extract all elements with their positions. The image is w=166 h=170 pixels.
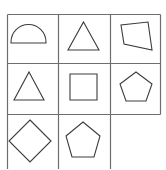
shape-square-r2-c2 xyxy=(70,74,97,100)
shape-semicircle-r1-c1 xyxy=(11,25,46,43)
shape-pentagon-r2-c3 xyxy=(120,72,152,101)
shape-rhombus-r1-c3 xyxy=(121,22,152,50)
grid-cell-r1-c3 xyxy=(121,22,152,50)
grid-cell-r2-c1 xyxy=(14,72,44,100)
grid-cell-r1-c2 xyxy=(68,22,99,50)
shape-triangle-r2-c1 xyxy=(14,72,44,100)
shape-diamond-r3-c1 xyxy=(9,120,51,162)
grid-cell-r2-c2 xyxy=(70,74,97,100)
shape-grid-canvas xyxy=(0,0,166,169)
shape-triangle-r1-c2 xyxy=(68,22,99,50)
grid-lines xyxy=(8,15,161,170)
grid-cell-r1-c1 xyxy=(11,25,46,43)
shape-grid-puzzle xyxy=(0,0,166,169)
grid-cell-r2-c3 xyxy=(120,72,152,101)
shapes-layer xyxy=(9,22,152,162)
grid-cell-r3-c1 xyxy=(9,120,51,162)
grid-cell-r3-c2 xyxy=(66,122,100,157)
shape-pentagon-r3-c2 xyxy=(66,122,100,157)
